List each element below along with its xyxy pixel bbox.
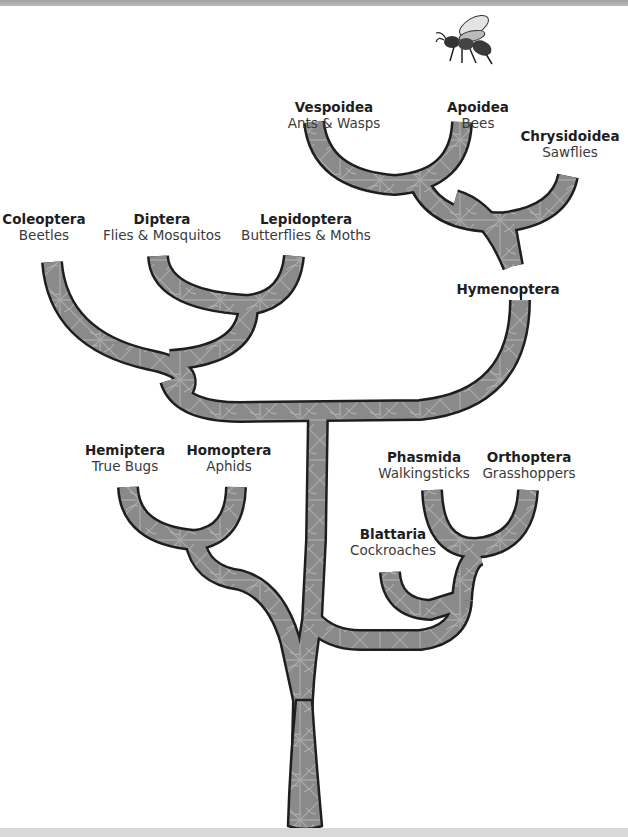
group-common-name: Butterflies & Moths (241, 228, 371, 244)
label-hemiptera: Hemiptera True Bugs (85, 443, 165, 475)
group-common-name: Walkingsticks (378, 466, 470, 482)
group-name: Blattaria (350, 527, 436, 543)
label-apoidea: Apoidea Bees (447, 100, 509, 132)
group-name: Lepidoptera (241, 212, 371, 228)
label-hymenoptera: Hymenoptera (456, 282, 559, 298)
group-name: Apoidea (447, 100, 509, 116)
group-name: Phasmida (378, 450, 470, 466)
group-common-name: Bees (447, 116, 509, 132)
label-orthoptera: Orthoptera Grasshoppers (482, 450, 575, 482)
group-common-name: Sawflies (520, 145, 619, 161)
group-name: Diptera (103, 212, 221, 228)
group-common-name: True Bugs (85, 459, 165, 475)
group-common-name: Aphids (187, 459, 272, 475)
group-name: Vespoidea (288, 100, 381, 116)
bottom-edge (0, 828, 628, 837)
group-name: Coleoptera (2, 212, 85, 228)
group-common-name: Flies & Mosquitos (103, 228, 221, 244)
label-homoptera: Homoptera Aphids (187, 443, 272, 475)
group-name: Orthoptera (482, 450, 575, 466)
label-diptera: Diptera Flies & Mosquitos (103, 212, 221, 244)
group-name: Hemiptera (85, 443, 165, 459)
label-chrysidoidea: Chrysidoidea Sawflies (520, 129, 619, 161)
group-name: Homoptera (187, 443, 272, 459)
label-lepidoptera: Lepidoptera Butterflies & Moths (241, 212, 371, 244)
label-blattaria: Blattaria Cockroaches (350, 527, 436, 559)
group-name: Hymenoptera (456, 282, 559, 298)
label-coleoptera: Coleoptera Beetles (2, 212, 85, 244)
label-vespoidea: Vespoidea Ants & Wasps (288, 100, 381, 132)
label-phasmida: Phasmida Walkingsticks (378, 450, 470, 482)
group-common-name: Ants & Wasps (288, 116, 381, 132)
group-name: Chrysidoidea (520, 129, 619, 145)
bee-icon (436, 11, 494, 64)
group-common-name: Grasshoppers (482, 466, 575, 482)
group-common-name: Cockroaches (350, 543, 436, 559)
group-common-name: Beetles (2, 228, 85, 244)
